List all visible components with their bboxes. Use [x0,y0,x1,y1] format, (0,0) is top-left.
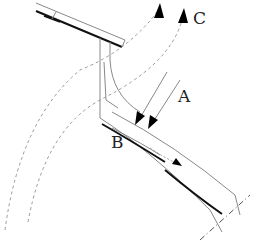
label-b: B [111,134,124,151]
label-c: C [193,10,206,27]
top-plate [36,3,125,47]
vertical-strut [100,38,140,118]
diagram-canvas: A B C [0,0,259,246]
label-a: A [178,88,190,105]
flow-arrows-a [135,72,180,129]
diagram-drawing [0,0,259,246]
